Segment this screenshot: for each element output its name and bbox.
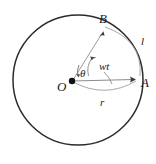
label-radius-r: r [100,96,105,108]
label-center-o: O [57,79,67,94]
wt-angle-arc [88,58,92,76]
label-angular-displacement-wt: wt [99,60,110,72]
diagram-canvas: O A B θ wt r l [0,0,156,164]
label-arc-length-l: l [141,35,144,47]
label-angle-theta: θ [80,67,86,79]
arc-length-arc [105,27,140,76]
center-point-marker [69,78,75,84]
circular-motion-figure: O A B θ wt r l [0,0,156,164]
label-point-a: A [140,75,149,90]
wt-angle-arc-lower [104,72,112,84]
radius-oa-line [73,80,133,82]
radius-ob-arrowhead [99,31,104,37]
label-point-b: B [99,11,107,26]
radius-annotation-arc [73,81,136,90]
